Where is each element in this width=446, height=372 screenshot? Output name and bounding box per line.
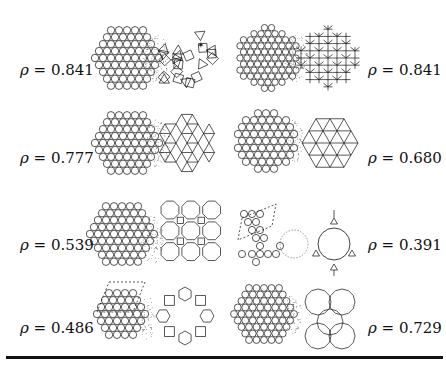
density-label-r1-left: ρ = 0.841 [20,61,94,79]
rho-symbol: ρ [20,236,29,254]
panel-r2-left [95,106,215,180]
svg-text:✶: ✶ [197,40,205,50]
panel-r4-left [95,280,215,348]
rho-symbol: ρ [368,319,377,337]
panel-r1-right [236,22,358,94]
equals-sign: = [377,236,399,254]
equals-sign: = [377,319,399,337]
panel-r3-left [90,196,214,272]
equals-sign: = [29,61,51,79]
density-label-r2-left: ρ = 0.777 [20,149,94,167]
density-label-r2-right: ρ = 0.680 [368,149,442,167]
density-value: 0.539 [51,236,94,254]
equals-sign: = [377,149,399,167]
density-label-r4-right: ρ = 0.729 [368,319,442,337]
panel-r2-right [236,106,362,180]
panel-r1-left: ✶ [95,22,215,94]
density-value: 0.391 [399,236,442,254]
equals-sign: = [29,149,51,167]
rho-symbol: ρ [368,149,377,167]
panel-r3-right [232,196,362,280]
density-value: 0.841 [51,61,94,79]
density-value: 0.486 [51,319,94,337]
equals-sign: = [29,319,51,337]
rho-symbol: ρ [20,61,29,79]
density-label-r4-left: ρ = 0.486 [20,319,94,337]
density-value: 0.777 [51,149,94,167]
rho-symbol: ρ [368,236,377,254]
density-value: 0.680 [399,149,442,167]
density-label-r1-right: ρ = 0.841 [368,61,442,79]
rho-symbol: ρ [20,319,29,337]
density-value: 0.729 [399,319,442,337]
panel-r4-right [234,280,362,348]
rho-symbol: ρ [368,61,377,79]
density-label-r3-left: ρ = 0.539 [20,236,94,254]
rho-symbol: ρ [20,149,29,167]
density-value: 0.841 [399,61,442,79]
bottom-rule [6,356,443,359]
density-label-r3-right: ρ = 0.391 [368,236,442,254]
equals-sign: = [29,236,51,254]
equals-sign: = [377,61,399,79]
